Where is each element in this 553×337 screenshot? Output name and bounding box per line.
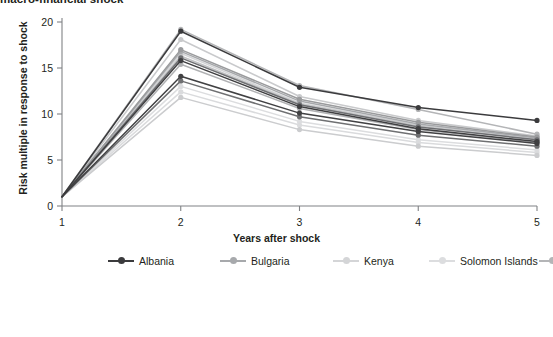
x-tick-label: 4 [415,216,421,228]
chart-legend: AlbaniaBulgariaKenyaSolomon IslandsArgen… [108,252,548,270]
x-tick-label: 2 [178,216,184,228]
data-point [178,37,183,42]
legend-swatch-icon [539,255,553,266]
data-point [416,120,421,125]
data-point [297,85,302,90]
data-point [297,122,302,127]
data-point [178,95,183,100]
y-tick-label: 5 [47,154,53,166]
legend-item-argentina[interactable]: Argentina [539,252,553,270]
data-point [416,105,421,110]
x-tick-label: 5 [534,216,540,228]
data-point [534,153,539,158]
data-point [416,144,421,149]
legend-swatch-icon [220,255,246,266]
x-tick-label: 1 [59,216,65,228]
series-layer [62,27,540,197]
legend-label: Albania [134,255,174,267]
data-point [178,58,183,63]
data-point [297,127,302,132]
x-tick-label: 3 [297,216,303,228]
data-point [534,118,539,123]
legend-item-bulgaria[interactable]: Bulgaria [220,252,333,270]
y-tick-label: 10 [41,108,53,120]
data-point [178,74,183,79]
legend-swatch-icon [429,255,455,266]
data-point [297,104,302,109]
chart-figure: macro-financial shock Risk multiple in r… [0,0,553,337]
legend-item-solomon-islands[interactable]: Solomon Islands [429,252,539,270]
plot-area: 0510152012345 [0,0,553,250]
legend-item-kenya[interactable]: Kenya [333,252,429,270]
legend-label: Bulgaria [246,255,290,267]
legend-label: Kenya [359,255,394,267]
legend-label: Solomon Islands [455,255,538,267]
y-tick-label: 0 [47,200,53,212]
data-point [297,111,302,116]
data-point [297,97,302,102]
data-point [416,126,421,131]
y-tick-label: 15 [41,62,53,74]
data-point [178,84,183,89]
y-tick-label: 20 [41,16,53,28]
legend-swatch-icon [333,255,359,266]
data-point [178,89,183,94]
data-point [178,47,183,52]
data-point [178,29,183,34]
legend-swatch-icon [108,255,134,266]
data-point [534,139,539,144]
legend-item-albania[interactable]: Albania [108,252,220,270]
